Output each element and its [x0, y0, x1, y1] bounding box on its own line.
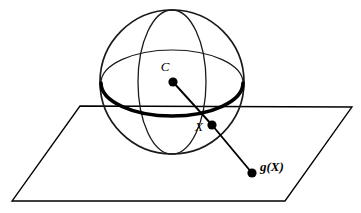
center-point-marker [168, 77, 177, 86]
center-label: C [161, 59, 170, 74]
sphere-point-label: X [194, 119, 204, 134]
sphere-projection-figure: C X g(X) [0, 0, 361, 213]
projected-point-marker [247, 168, 256, 177]
projected-point-label: g(X) [259, 159, 284, 174]
figure-canvas: C X g(X) [0, 0, 361, 213]
sphere-point-marker [207, 120, 216, 129]
